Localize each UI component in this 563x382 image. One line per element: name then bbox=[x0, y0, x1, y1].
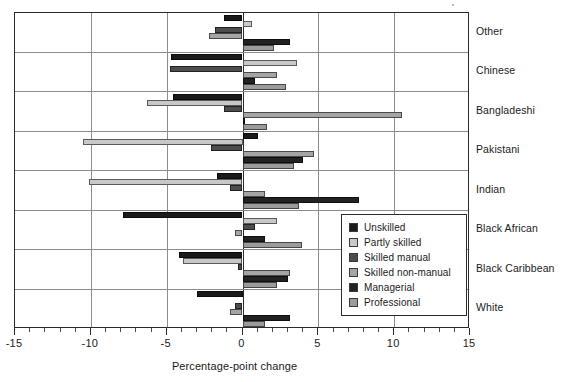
tick-12 bbox=[424, 328, 425, 332]
tick--10 bbox=[90, 328, 91, 335]
category-label-chinese: Chinese bbox=[476, 64, 515, 76]
legend-swatch-icon bbox=[349, 283, 358, 292]
tick--13 bbox=[44, 328, 45, 332]
tick--2 bbox=[211, 328, 212, 332]
tick--3 bbox=[196, 328, 197, 332]
tick-label--15: -15 bbox=[6, 337, 23, 349]
legend-swatch-icon bbox=[349, 298, 358, 307]
bar-group-bangladeshi bbox=[15, 92, 468, 132]
tick-6 bbox=[333, 328, 334, 332]
bar-slot bbox=[15, 124, 468, 130]
tick--6 bbox=[151, 328, 152, 332]
tick-label-0: 0 bbox=[238, 337, 244, 349]
legend-label: Skilled non-manual bbox=[364, 267, 451, 278]
tick--11 bbox=[75, 328, 76, 332]
category-label-bangladeshi: Bangladeshi bbox=[476, 104, 535, 116]
tick-5 bbox=[317, 328, 318, 335]
legend-item-partly-skilled: Partly skilled bbox=[349, 235, 460, 250]
bar-professional bbox=[243, 84, 287, 90]
tick--8 bbox=[120, 328, 121, 332]
bar-professional bbox=[243, 282, 278, 288]
tick-label-5: 5 bbox=[314, 337, 320, 349]
bar-professional bbox=[243, 163, 295, 169]
bar-group-pakistani bbox=[15, 132, 468, 172]
tick--5 bbox=[166, 328, 167, 335]
legend-label: Managerial bbox=[364, 282, 414, 293]
bar-slot bbox=[15, 45, 468, 51]
legend-item-skilled-non-manual: Skilled non-manual bbox=[349, 265, 460, 280]
bar-professional bbox=[243, 45, 275, 51]
bar-slot bbox=[15, 163, 468, 169]
tick--4 bbox=[181, 328, 182, 332]
bar-group-chinese bbox=[15, 53, 468, 93]
tick-15 bbox=[469, 328, 470, 335]
tick--7 bbox=[135, 328, 136, 332]
legend-swatch-icon bbox=[349, 223, 358, 232]
category-label-pakistani: Pakistani bbox=[476, 143, 520, 155]
category-label-white: White bbox=[476, 301, 503, 313]
tick-10 bbox=[393, 328, 394, 335]
legend-item-skilled-manual: Skilled manual bbox=[349, 250, 460, 265]
tick-label--5: -5 bbox=[161, 337, 171, 349]
bar-slot bbox=[15, 203, 468, 209]
tick-label-15: 15 bbox=[463, 337, 476, 349]
tick-9 bbox=[378, 328, 379, 332]
tick-3 bbox=[287, 328, 288, 332]
bar-slot bbox=[15, 84, 468, 90]
legend-swatch-icon bbox=[349, 253, 358, 262]
tick-1 bbox=[257, 328, 258, 332]
chart-container: -15-10-5051015 Percentage-point change O… bbox=[0, 0, 563, 382]
bar-group-other bbox=[15, 13, 468, 53]
tick-7 bbox=[348, 328, 349, 332]
tick--9 bbox=[105, 328, 106, 332]
legend-item-unskilled: Unskilled bbox=[349, 220, 460, 235]
legend-label: Partly skilled bbox=[364, 237, 422, 248]
tick--14 bbox=[29, 328, 30, 332]
category-label-black-african: Black African bbox=[476, 222, 538, 234]
tick-label--10: -10 bbox=[82, 337, 99, 349]
legend-label: Unskilled bbox=[364, 222, 405, 233]
bar-professional bbox=[243, 242, 302, 248]
tick-label-10: 10 bbox=[387, 337, 400, 349]
legend-label: Professional bbox=[364, 297, 420, 308]
legend-item-professional: Professional bbox=[349, 295, 460, 310]
bar-group-indian bbox=[15, 171, 468, 211]
tick-2 bbox=[272, 328, 273, 332]
tick-13 bbox=[439, 328, 440, 332]
tick-0 bbox=[242, 328, 243, 335]
tick-14 bbox=[454, 328, 455, 332]
bar-professional bbox=[243, 124, 267, 130]
bar-professional bbox=[243, 203, 299, 209]
tick--12 bbox=[60, 328, 61, 332]
legend-swatch-icon bbox=[349, 238, 358, 247]
tick-4 bbox=[302, 328, 303, 332]
tick--1 bbox=[226, 328, 227, 332]
tick--15 bbox=[14, 328, 15, 335]
scan-artifact-speck bbox=[452, 4, 454, 6]
legend-item-managerial: Managerial bbox=[349, 280, 460, 295]
tick-11 bbox=[408, 328, 409, 332]
category-label-other: Other bbox=[476, 25, 503, 37]
category-label-indian: Indian bbox=[476, 183, 505, 195]
legend-label: Skilled manual bbox=[364, 252, 430, 263]
category-label-black-caribbean: Black Caribbean bbox=[476, 262, 555, 274]
x-axis-title: Percentage-point change bbox=[0, 360, 469, 372]
legend-swatch-icon bbox=[349, 268, 358, 277]
chart-legend: UnskilledPartly skilledSkilled manualSki… bbox=[341, 214, 467, 316]
tick-8 bbox=[363, 328, 364, 332]
